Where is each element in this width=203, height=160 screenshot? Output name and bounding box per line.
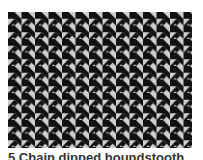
houndstooth-swatch	[8, 12, 192, 148]
houndstooth-pattern-image	[8, 12, 192, 148]
image-caption: 5 Chain dipped houndstooth	[8, 151, 184, 160]
